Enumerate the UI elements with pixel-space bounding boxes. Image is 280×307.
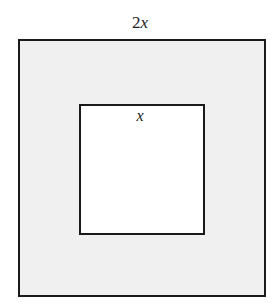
outer-square-label: 2x [120,13,160,33]
inner-square-label: x [120,107,160,125]
inner-label-variable: x [136,107,143,124]
outer-label-variable: x [140,13,148,32]
